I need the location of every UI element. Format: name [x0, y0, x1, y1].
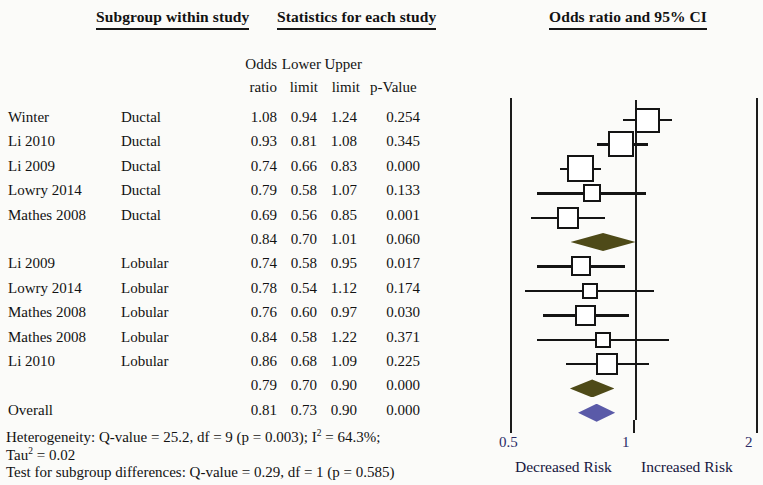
study-effect-marker — [582, 283, 598, 299]
overall-diamond-marker — [578, 404, 615, 422]
study-effect-marker — [557, 207, 579, 229]
subtotal-diamond-marker — [571, 233, 636, 251]
x-axis-tick — [510, 420, 512, 433]
study-effect-marker — [575, 305, 596, 326]
x-axis-tick-label: 1 — [622, 434, 630, 451]
forest-plot-figure: Subgroup within study Statistics for eac… — [0, 0, 763, 485]
x-axis-tick — [756, 420, 758, 433]
x-axis-tick — [633, 420, 635, 433]
plot-reference-line — [635, 100, 637, 420]
study-effect-marker — [595, 332, 611, 348]
plot-left-boundary-line — [510, 98, 512, 428]
study-effect-marker — [608, 131, 634, 157]
study-effect-marker — [583, 184, 601, 202]
plot-right-boundary-line — [756, 98, 758, 428]
study-effect-marker — [571, 256, 591, 276]
x-axis-tick-label: 0.5 — [499, 434, 518, 451]
study-effect-marker — [635, 108, 660, 133]
study-effect-marker — [596, 353, 618, 375]
x-axis-tick-label: 2 — [745, 434, 753, 451]
subtotal-diamond-marker — [570, 379, 615, 397]
axis-caption-decreased-risk: Decreased Risk — [515, 458, 612, 476]
forest-plot-area: 0.512 Decreased Risk Increased Risk — [0, 0, 763, 485]
study-effect-marker — [567, 155, 594, 182]
axis-caption-increased-risk: Increased Risk — [641, 458, 733, 476]
